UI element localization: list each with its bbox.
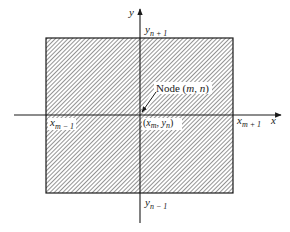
y-n-plus-1-label: yn + 1 [144, 23, 167, 38]
y-n-minus-1-label: yn − 1 [144, 196, 167, 211]
y-axis-label: y [128, 6, 134, 18]
diagram-canvas: y x yn + 1 yn − 1 xm − 1 xm + 1 (xm, yn)… [0, 0, 290, 232]
x-axis-label: x [270, 114, 276, 126]
node-label: Node (m, n) [156, 82, 209, 95]
x-m-plus-1-label: xm + 1 [236, 114, 261, 129]
